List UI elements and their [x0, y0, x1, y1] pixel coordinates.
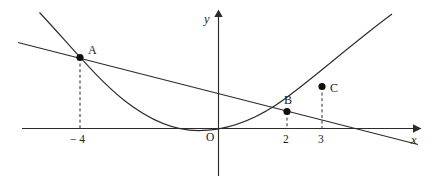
x-tick-label-3: 3	[318, 133, 324, 145]
x-tick-label-neg4: − 4	[70, 133, 85, 145]
point-c-label: C	[330, 81, 338, 95]
origin-label: O	[206, 131, 214, 143]
point-b-marker	[283, 108, 290, 115]
math-figure: A B C y x O − 4 2 3	[0, 0, 435, 191]
point-a-marker	[76, 54, 83, 61]
x-axis-label: x	[410, 133, 417, 147]
point-a-label: A	[88, 43, 97, 57]
point-c-marker	[318, 83, 325, 90]
y-axis-arrow-icon	[214, 10, 222, 18]
x-axis-arrow-icon	[413, 124, 422, 132]
y-axis-label: y	[202, 12, 210, 26]
graph-canvas: A B C y x O − 4 2 3	[0, 0, 435, 191]
parabola-curve	[40, 13, 393, 131]
x-tick-label-2: 2	[283, 133, 289, 145]
point-b-label: B	[284, 93, 292, 107]
